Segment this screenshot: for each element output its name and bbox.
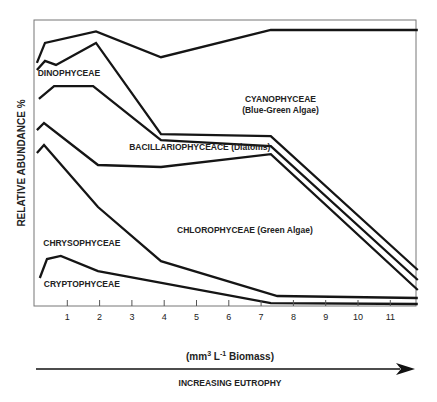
label-chlorophyceae: CHLOROPHYCEAE (Green Algae)	[177, 225, 313, 235]
x-tick-label: 6	[226, 312, 231, 322]
x-tick-label: 3	[129, 312, 134, 322]
label-cyanophyceae-sub: (Blue-Green Algae)	[242, 105, 319, 115]
y-axis-label: RELATIVE ABUNDANCE %	[16, 99, 27, 226]
eutrophy-arrow	[36, 363, 415, 375]
x-label-mid: L	[211, 351, 220, 362]
label-bacillariophyceae: BACILLARIOPHYCEACE (Diatoms)	[129, 142, 270, 152]
chlorophyceae-lower-line	[37, 145, 418, 298]
label-cyanophyceae: CYANOPHYCEAE	[245, 94, 316, 104]
arrow-label: INCREASING EUTROPHY	[179, 378, 282, 388]
x-tick-label: 1	[65, 312, 70, 322]
x-tick-label: 10	[353, 312, 363, 322]
dinophyceae-lower-line	[39, 86, 418, 280]
series-labels: DINOPHYCEAECYANOPHYCEAE(Blue-Green Algae…	[38, 68, 319, 290]
label-chrysophyceae: CHRYSOPHYCEAE	[43, 238, 120, 248]
x-tick-label: 7	[259, 312, 264, 322]
x-tick-label: 8	[291, 312, 296, 322]
label-dinophyceae: DINOPHYCEAE	[38, 68, 101, 78]
x-tick-label: 9	[323, 312, 328, 322]
eutrophy-abundance-chart: 1234567891011 DINOPHYCEAECYANOPHYCEAE(Bl…	[0, 0, 437, 402]
x-tick-label: 5	[194, 312, 199, 322]
x-tick-label: 2	[97, 312, 102, 322]
top-boundary-line	[37, 30, 418, 63]
x-tick-label: 4	[162, 312, 167, 322]
x-label-pre: (mm	[186, 351, 207, 362]
x-tick-label: 11	[386, 312, 395, 322]
plot-frame	[34, 20, 416, 306]
x-label-post: Biomass)	[226, 351, 274, 362]
label-cryptophyceae: CRYPTOPHYCEAE	[44, 279, 120, 289]
x-axis-label: (mm3 L-1 Biomass)	[186, 350, 274, 362]
